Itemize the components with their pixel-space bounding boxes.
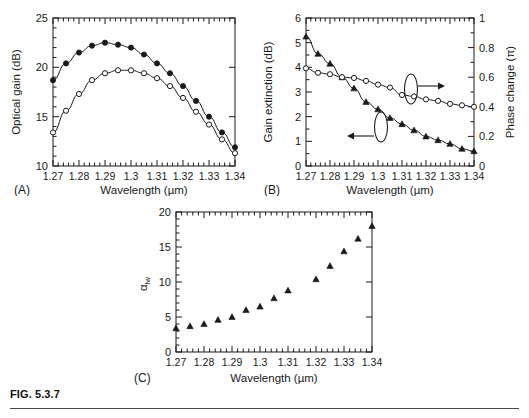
panel-a-xtick-3: 1.3 <box>124 170 139 182</box>
panel-a-x-tick-labels: 1.27 1.28 1.29 1.3 1.31 1.32 1.33 1.34 <box>43 170 246 182</box>
open-circle-series-point-6 <box>128 68 133 73</box>
panel-b-y2tick-5: 1 <box>479 12 485 24</box>
panel-a-xtick-0: 1.27 <box>43 170 64 182</box>
panel-b-xtick-5: 1.32 <box>416 170 437 182</box>
figure-5-3-7: 10 15 20 25 1.27 1.28 1.29 1.3 1.31 1.32… <box>0 0 529 418</box>
panel-a-ytick-1: 15 <box>36 111 48 123</box>
panel-c-ytick-4: 20 <box>159 206 171 218</box>
solid-circle-series-point-8 <box>154 61 159 66</box>
open-circle-series-point-7 <box>141 71 146 76</box>
solid-circle-series-point-12 <box>206 114 211 119</box>
panel-a-xtick-7: 1.34 <box>225 170 246 182</box>
open-circle-series-point-0 <box>50 130 55 135</box>
solid-circle-series-point-7 <box>141 52 146 57</box>
phase-change-series-point-0 <box>303 66 308 71</box>
panel-b-ytick-5: 5 <box>295 37 301 49</box>
open-circle-series-point-1 <box>63 108 68 113</box>
panel-b-xtick-2: 1.29 <box>344 170 365 182</box>
panel-b-y2tick-2: 0.4 <box>479 101 494 113</box>
solid-circle-series-point-10 <box>180 83 185 88</box>
panel-b-ytick-1: 1 <box>295 135 301 147</box>
open-circle-series-point-11 <box>193 109 198 114</box>
phase-change-series-point-14 <box>471 104 476 109</box>
solid-circle-series-point-1 <box>63 61 68 66</box>
open-circle-series-point-10 <box>180 95 185 100</box>
panel-b-xtick-1: 1.28 <box>320 170 341 182</box>
panel-a-x-axis-title: Wavelength (µm) <box>100 184 188 196</box>
solid-circle-series-point-5 <box>115 42 120 47</box>
phase-change-series-point-3 <box>339 75 344 80</box>
panel-a-optical-gain: 10 15 20 25 1.27 1.28 1.29 1.3 1.31 1.32… <box>0 0 262 196</box>
panel-b-ytick-2: 2 <box>295 111 301 123</box>
open-circle-series-point-5 <box>115 68 120 73</box>
panel-b-x-tick-labels: 1.27 1.28 1.29 1.3 1.31 1.32 1.33 1.34 <box>296 170 485 182</box>
panel-a-ytick-3: 25 <box>36 12 48 24</box>
phase-change-series-point-12 <box>447 101 452 106</box>
panel-c-xtick-7: 1.34 <box>362 356 383 368</box>
phase-change-series-point-11 <box>435 98 440 103</box>
phase-change-series-point-5 <box>363 78 368 83</box>
panel-a-y-axis-title: Optical gain (dB) <box>10 49 22 135</box>
panel-b-xtick-6: 1.33 <box>440 170 461 182</box>
solid-circle-series-point-3 <box>89 43 94 48</box>
alpha-subscript: lw <box>143 277 152 285</box>
panel-b-y2tick-1: 0.2 <box>479 130 494 142</box>
open-circle-series-point-13 <box>219 137 224 142</box>
panel-b-xtick-7: 1.34 <box>464 170 485 182</box>
panel-b-y-tick-labels: 0 1 2 3 4 5 6 <box>295 12 301 172</box>
panel-b-ytick-3: 3 <box>295 86 301 98</box>
solid-circle-series-point-0 <box>50 78 55 83</box>
svg-text:αlw: αlw <box>137 277 152 291</box>
phase-change-series-point-1 <box>315 70 320 75</box>
open-circle-series-point-2 <box>76 91 81 96</box>
panel-b-plot: 0 1 2 3 4 5 6 0 0.2 0.4 0.6 0.8 1 1.27 1… <box>256 0 529 196</box>
panel-a-xtick-5: 1.32 <box>173 170 194 182</box>
panel-b-y2-tick-labels: 0 0.2 0.4 0.6 0.8 1 <box>479 12 494 172</box>
panel-a-xtick-4: 1.31 <box>147 170 168 182</box>
panel-c-xtick-6: 1.33 <box>334 356 355 368</box>
panel-b-ytick-4: 4 <box>295 61 301 73</box>
panel-c-xtick-0: 1.27 <box>166 356 187 368</box>
panel-c-xtick-3: 1.3 <box>253 356 268 368</box>
panel-c-xtick-4: 1.31 <box>278 356 299 368</box>
phase-change-series-point-7 <box>387 85 392 90</box>
panel-b-label: (B) <box>264 183 280 196</box>
solid-circle-series-point-4 <box>102 40 107 45</box>
panel-a-label: (A) <box>14 183 30 196</box>
panel-b-gain-extinction-phase: 0 1 2 3 4 5 6 0 0.2 0.4 0.6 0.8 1 1.27 1… <box>256 0 529 196</box>
panel-c-x-tick-labels: 1.27 1.28 1.29 1.3 1.31 1.32 1.33 1.34 <box>166 356 383 368</box>
panel-a-plot: 10 15 20 25 1.27 1.28 1.29 1.3 1.31 1.32… <box>0 0 262 196</box>
panel-c-xtick-2: 1.29 <box>222 356 243 368</box>
panel-b-xtick-0: 1.27 <box>296 170 317 182</box>
open-circle-series-point-12 <box>206 122 211 127</box>
open-circle-series-point-9 <box>167 83 172 88</box>
panel-c-y-tick-labels: 0 5 10 15 20 <box>159 206 171 358</box>
panel-a-xtick-6: 1.33 <box>199 170 220 182</box>
panel-b-xtick-3: 1.3 <box>371 170 386 182</box>
solid-circle-series-point-13 <box>219 130 224 135</box>
solid-circle-series-point-11 <box>193 98 198 103</box>
phase-change-series-point-13 <box>459 103 464 108</box>
panel-c-ytick-3: 15 <box>159 241 171 253</box>
panel-b-xtick-4: 1.31 <box>392 170 413 182</box>
caption-divider <box>10 408 519 409</box>
panel-a-ytick-2: 20 <box>36 61 48 73</box>
phase-change-series-point-10 <box>423 97 428 102</box>
phase-change-series-point-8 <box>399 92 404 97</box>
phase-change-series-point-4 <box>351 75 356 80</box>
panel-a-y-tick-labels: 10 15 20 25 <box>36 12 48 172</box>
open-circle-series-point-14 <box>232 151 237 156</box>
panel-a-xtick-2: 1.29 <box>95 170 116 182</box>
panel-c-xtick-1: 1.28 <box>194 356 215 368</box>
solid-circle-series-point-9 <box>167 71 172 76</box>
panel-c-ytick-2: 10 <box>159 276 171 288</box>
figure-number: FIG. 5.3.7 <box>10 388 60 400</box>
phase-change-series-point-6 <box>375 82 380 87</box>
panel-a-xtick-1: 1.28 <box>69 170 90 182</box>
panel-c-ytick-1: 5 <box>165 311 171 323</box>
panel-c-y-axis-title: αlw <box>137 277 152 291</box>
open-circle-series-point-4 <box>102 71 107 76</box>
solid-circle-series-point-2 <box>76 50 81 55</box>
panel-b-y2-axis-title: Phase change (π) <box>504 46 516 138</box>
open-circle-series-point-8 <box>154 76 159 81</box>
